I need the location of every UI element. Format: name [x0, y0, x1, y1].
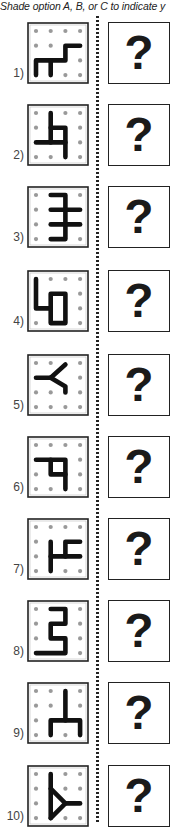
- grid-dot: [49, 689, 53, 693]
- pattern-figure: [27, 765, 89, 827]
- grid-dot: [78, 111, 82, 115]
- grid-dot: [34, 733, 38, 737]
- answer-box[interactable]: ?: [108, 270, 170, 332]
- grid-dot: [78, 321, 82, 325]
- grid-dot: [78, 277, 82, 281]
- problem-number: 2): [0, 148, 24, 162]
- pattern-figure: [27, 22, 89, 84]
- grid-dot: [78, 816, 82, 820]
- grid-dot: [34, 222, 38, 226]
- grid-dot: [63, 787, 67, 791]
- problem-number: 4): [0, 314, 24, 328]
- grid-dot: [34, 704, 38, 708]
- grid-dot: [34, 193, 38, 197]
- grid-dot: [34, 540, 38, 544]
- grid-dot: [78, 787, 82, 791]
- grid-dot: [34, 718, 38, 722]
- instruction-text: Shade option A, B, or C to indicate y: [0, 0, 165, 12]
- grid-dot: [78, 472, 82, 476]
- grid-dot: [63, 569, 67, 573]
- grid-dot: [34, 787, 38, 791]
- pattern-figure: [27, 600, 89, 662]
- grid-dot: [63, 733, 67, 737]
- grid-dot: [34, 525, 38, 529]
- grid-dot: [49, 443, 53, 447]
- grid-dot: [78, 237, 82, 241]
- pattern-figure: [27, 104, 89, 166]
- question-mark-icon: ?: [109, 522, 169, 576]
- grid-dot: [78, 772, 82, 776]
- grid-dot: [78, 622, 82, 626]
- grid-dot: [78, 126, 82, 130]
- pattern-figure: [27, 518, 89, 580]
- grid-dot: [34, 208, 38, 212]
- grid-dot: [78, 689, 82, 693]
- grid-dot: [78, 361, 82, 365]
- grid-dot: [34, 443, 38, 447]
- grid-dot: [78, 607, 82, 611]
- question-mark-icon: ?: [109, 686, 169, 740]
- question-mark-icon: ?: [109, 274, 169, 328]
- grid-dot: [78, 458, 82, 462]
- question-mark-icon: ?: [109, 769, 169, 823]
- grid-dot: [34, 237, 38, 241]
- problem-row: 4)?: [0, 270, 187, 334]
- grid-dot: [49, 155, 53, 159]
- grid-dot: [78, 73, 82, 77]
- question-mark-icon: ?: [109, 604, 169, 658]
- grid-dot: [78, 569, 82, 573]
- problem-number: 1): [0, 66, 24, 80]
- grid-dot: [63, 772, 67, 776]
- grid-dot: [63, 111, 67, 115]
- grid-dot: [63, 525, 67, 529]
- grid-dot: [34, 569, 38, 573]
- pattern-figure: [27, 436, 89, 498]
- answer-box[interactable]: ?: [108, 186, 170, 248]
- answer-box[interactable]: ?: [108, 600, 170, 662]
- grid-dot: [78, 636, 82, 640]
- grid-dot: [49, 390, 53, 394]
- problem-row: 3)?: [0, 186, 187, 250]
- answer-box[interactable]: ?: [108, 765, 170, 827]
- grid-dot: [63, 816, 67, 820]
- grid-dot: [78, 704, 82, 708]
- answer-box[interactable]: ?: [108, 104, 170, 166]
- grid-dot: [78, 651, 82, 655]
- problem-row: 6)?: [0, 436, 187, 500]
- answer-box[interactable]: ?: [108, 354, 170, 416]
- answer-box[interactable]: ?: [108, 22, 170, 84]
- grid-dot: [34, 622, 38, 626]
- answer-box[interactable]: ?: [108, 518, 170, 580]
- grid-dot: [78, 155, 82, 159]
- grid-dot: [34, 29, 38, 33]
- grid-dot: [49, 277, 53, 281]
- answer-box[interactable]: ?: [108, 436, 170, 498]
- problem-row: 10)?: [0, 765, 187, 829]
- grid-dot: [49, 487, 53, 491]
- grid-dot: [78, 443, 82, 447]
- problem-number: 5): [0, 398, 24, 412]
- problem-row: 5)?: [0, 354, 187, 418]
- answer-box[interactable]: ?: [108, 682, 170, 744]
- pattern-figure: [27, 682, 89, 744]
- question-mark-icon: ?: [109, 26, 169, 80]
- grid-dot: [49, 29, 53, 33]
- grid-dot: [34, 636, 38, 640]
- grid-dot: [34, 44, 38, 48]
- problem-number: 7): [0, 562, 24, 576]
- pattern-figure: [27, 270, 89, 332]
- grid-dot: [34, 472, 38, 476]
- grid-dot: [78, 390, 82, 394]
- grid-dot: [49, 704, 53, 708]
- grid-dot: [78, 58, 82, 62]
- problem-row: 2)?: [0, 104, 187, 168]
- grid-dot: [49, 44, 53, 48]
- grid-dot: [34, 772, 38, 776]
- grid-dot: [63, 443, 67, 447]
- grid-dot: [78, 29, 82, 33]
- grid-dot: [49, 405, 53, 409]
- problem-row: 1)?: [0, 22, 187, 86]
- grid-dot: [78, 193, 82, 197]
- grid-dot: [34, 361, 38, 365]
- grid-dot: [78, 292, 82, 296]
